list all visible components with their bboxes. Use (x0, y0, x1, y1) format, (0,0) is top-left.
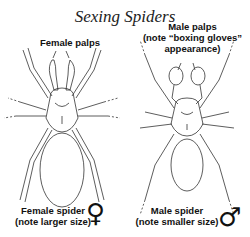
male-spider-label-line1: Male spider (132, 205, 222, 216)
male-spider-label: Male spider (note smaller size) (132, 205, 222, 227)
female-spider-label: Female spider (note larger size) (8, 205, 98, 227)
spider-illustrations (0, 0, 250, 237)
male-spider-label-line2: (note smaller size) (132, 216, 222, 227)
female-symbol-icon: ♀ (86, 198, 105, 228)
male-spider-drawing (140, 40, 234, 215)
female-spider-drawing (4, 48, 120, 207)
male-symbol-icon: ♂ (218, 202, 241, 232)
female-spider-label-line1: Female spider (8, 205, 98, 216)
female-spider-label-line2: (note larger size) (8, 216, 98, 227)
